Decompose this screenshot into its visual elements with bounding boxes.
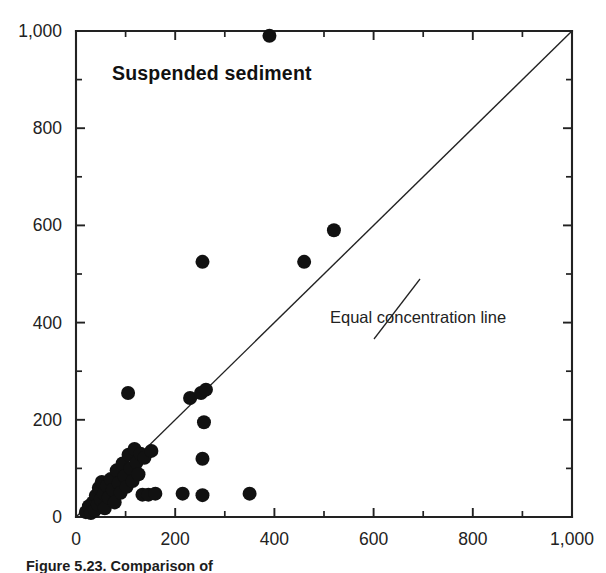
x-tick-label: 600 (359, 529, 388, 549)
x-tick-label: 0 (71, 529, 81, 549)
data-point (197, 415, 211, 429)
y-tick-label: 800 (33, 118, 62, 138)
data-point (327, 223, 341, 237)
data-point (195, 488, 209, 502)
y-tick-label: 0 (52, 507, 62, 527)
y-tick-label: 1,000 (18, 21, 62, 41)
x-tick-label: 200 (161, 529, 190, 549)
figure-caption: Figure 5.23. Comparison of (26, 558, 586, 573)
data-point (144, 444, 158, 458)
y-tick-label: 600 (33, 215, 62, 235)
scatter-plot: 02004006008001,00002004006008001,000 Sus… (0, 0, 606, 573)
data-point (121, 386, 135, 400)
plot-title: Suspended sediment (112, 62, 312, 84)
data-points (79, 29, 341, 520)
equal-concentration-line-label: Equal concentration line (330, 308, 506, 326)
data-point (195, 255, 209, 269)
x-tick-label: 1,000 (550, 529, 594, 549)
x-tick-label: 800 (458, 529, 487, 549)
data-point (195, 452, 209, 466)
data-point (199, 383, 213, 397)
data-point (176, 487, 190, 501)
data-point (243, 487, 257, 501)
x-tick-label: 400 (260, 529, 289, 549)
data-point (148, 487, 162, 501)
y-tick-label: 200 (33, 410, 62, 430)
data-point (262, 29, 276, 43)
y-tick-label: 400 (33, 313, 62, 333)
axis-tick-labels: 02004006008001,00002004006008001,000 (18, 21, 594, 549)
figure-container: 02004006008001,00002004006008001,000 Sus… (0, 0, 606, 573)
data-point (297, 255, 311, 269)
data-point (131, 467, 145, 481)
